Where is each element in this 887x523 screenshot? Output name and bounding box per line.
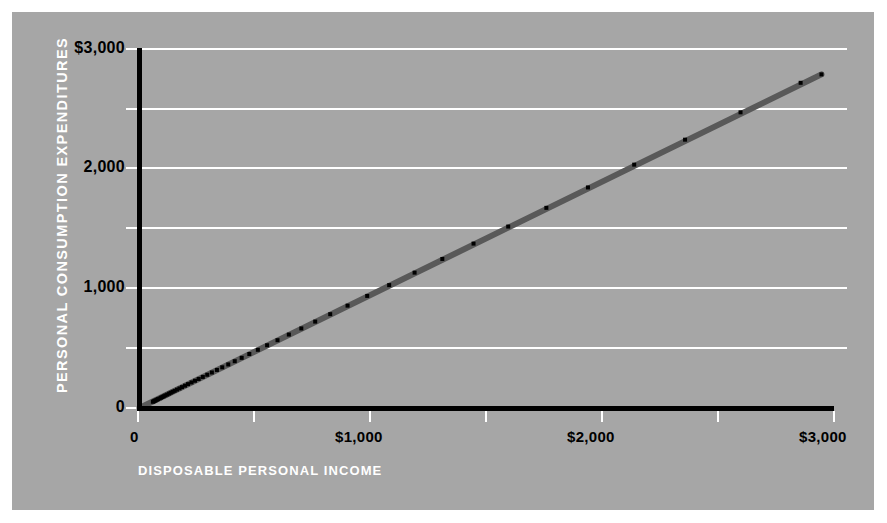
scatter-point — [506, 225, 510, 229]
scatter-point — [240, 356, 244, 360]
scatter-point — [365, 294, 369, 298]
scatter-point — [205, 373, 209, 377]
scatter-point — [544, 206, 548, 210]
scatter-point — [739, 110, 743, 114]
scatter-point — [313, 320, 317, 324]
scatter-point — [287, 333, 291, 337]
chart-figure: PERSONAL CONSUMPTION EXPENDITURES DISPOS… — [0, 0, 887, 523]
chart-panel: PERSONAL CONSUMPTION EXPENDITURES DISPOS… — [12, 12, 874, 510]
scatter-point — [346, 304, 350, 308]
scatter-point — [193, 379, 197, 383]
scatter-point — [413, 271, 417, 275]
plot-area: $3,000 2,000 1,000 0 0 $1,000 $2,000 $3,… — [12, 12, 874, 510]
scatter-point — [472, 242, 476, 246]
scatter-point — [215, 368, 219, 372]
x-axis-line — [137, 406, 834, 411]
scatter-point — [226, 362, 230, 366]
scatter-point — [247, 352, 251, 356]
scatter-point — [220, 365, 224, 369]
scatter-point — [276, 338, 280, 342]
y-axis-line — [137, 48, 142, 410]
scatter-point — [233, 359, 237, 363]
scatter-point — [799, 81, 803, 85]
scatter-point — [387, 283, 391, 287]
scatter-point — [328, 312, 332, 316]
scatter-point — [586, 185, 590, 189]
scatter-point — [299, 326, 303, 330]
scatter-point — [256, 348, 260, 352]
scatter-point — [186, 382, 190, 386]
scatter-point — [440, 257, 444, 261]
scatter-point — [265, 343, 269, 347]
scatter-point — [683, 138, 687, 142]
scatter-point — [632, 163, 636, 167]
scatter-point — [210, 370, 214, 374]
scatter-point — [190, 380, 194, 384]
scatter-point — [819, 72, 823, 76]
scatter-point — [197, 377, 201, 381]
scatter-point — [201, 375, 205, 379]
